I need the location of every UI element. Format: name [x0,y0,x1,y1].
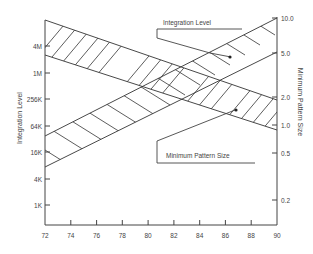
y-left-tick-label: 16K [30,149,42,156]
y-left-tick-label: 4M [33,43,42,50]
y-left-tick-label: 4K [34,176,43,183]
y-right-tick-label: 2.0 [281,94,290,101]
right-ticks: 10.0 5.0 2.0 1.0 0.5 0.2 [272,15,294,204]
chart: 4M 1M 256K 64K 16K 4K 1K 10.0 5.0 2.0 1.… [0,0,313,254]
y-right-tick-label: 0.5 [281,150,290,157]
y-right-axis-title: Minimum Pattern Size [297,68,304,137]
callout-minimum-pattern-size-dot [234,108,237,111]
x-tick-label: 82 [170,232,178,239]
callout-integration-level-dot [228,55,231,58]
y-right-tick-label: 1.0 [281,122,290,129]
x-tick-label: 78 [119,232,127,239]
x-tick-label: 86 [222,232,230,239]
y-left-tick-label: 1K [34,202,43,209]
y-right-tick-label: 10.0 [281,15,294,22]
y-left-tick-label: 1M [33,70,42,77]
y-left-tick-label: 64K [30,123,42,130]
y-left-tick-label: 256K [27,96,43,103]
y-right-tick-label: 0.2 [281,197,290,204]
x-tick-label: 84 [196,232,204,239]
left-ticks: 4M 1M 256K 64K 16K 4K 1K [27,43,50,209]
x-tick-label: 74 [67,232,75,239]
y-left-axis-title: Integration Level [16,92,24,144]
callout-minimum-pattern-size-label: Minimum Pattern Size [166,152,230,159]
callout-integration-level-label: Integration Level [163,19,212,27]
integration-level-band [5,0,313,150]
x-tick-label: 72 [41,232,49,239]
x-tick-label: 90 [273,232,281,239]
x-tick-label: 76 [93,232,101,239]
x-tick-label: 80 [144,232,152,239]
x-tick-label: 88 [248,232,256,239]
minimum-pattern-size-band [0,0,305,185]
y-right-tick-label: 5.0 [281,50,290,57]
callout-minimum-pattern-size: Minimum Pattern Size [157,108,255,163]
x-ticks: 72 74 76 78 80 82 84 86 88 90 [41,220,281,239]
callout-integration-level: Integration Level [157,19,242,59]
